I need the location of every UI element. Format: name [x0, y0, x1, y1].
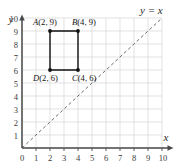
y-tick-2: 2 [14, 118, 18, 128]
x-tick-8: 8 [132, 153, 136, 163]
y-tick-1: 1 [14, 131, 18, 141]
y-tick-6: 6 [14, 66, 18, 76]
line-equation-label: y = x [139, 4, 163, 16]
y-axis-label: y [8, 13, 14, 25]
x-tick-0: 0 [20, 153, 24, 163]
x-axis-label: x [163, 131, 169, 143]
point-label-c-coords: (4, 6) [78, 73, 97, 83]
x-tick-10: 10 [159, 153, 168, 163]
point-marker-a [48, 29, 52, 33]
x-tick-1: 1 [34, 153, 38, 163]
y-tick-8: 8 [14, 40, 18, 50]
x-axis-tick-labels: 0 1 2 3 4 5 6 7 8 9 10 [20, 153, 167, 163]
point-marker-d [48, 68, 52, 72]
y-tick-3: 3 [14, 105, 18, 115]
point-label-a: A(2, 9) [32, 17, 57, 27]
point-label-d-coords: (2, 6) [39, 73, 58, 83]
point-label-b-coords: (4, 9) [77, 17, 96, 27]
point-label-a-coords: (2, 9) [38, 17, 57, 27]
point-label-b: B(4, 9) [72, 17, 96, 27]
x-tick-5: 5 [90, 153, 94, 163]
x-tick-7: 7 [118, 153, 122, 163]
y-tick-7: 7 [14, 53, 18, 63]
point-label-d: D(2, 6) [32, 73, 58, 83]
y-axis-arrow [19, 15, 25, 21]
point-marker-c [76, 68, 80, 72]
x-tick-4: 4 [76, 153, 81, 163]
x-axis-arrow [168, 145, 174, 151]
y-tick-9: 9 [14, 27, 18, 37]
x-tick-6: 6 [104, 153, 108, 163]
point-marker-b [76, 29, 80, 33]
x-tick-9: 9 [146, 153, 150, 163]
y-tick-4: 4 [14, 92, 19, 102]
x-tick-2: 2 [48, 153, 52, 163]
y-tick-5: 5 [14, 79, 18, 89]
graph-svg: 10 9 8 7 6 5 4 3 2 1 0 1 2 3 4 5 6 7 8 9… [0, 0, 180, 168]
point-label-c: C(4, 6) [72, 73, 96, 83]
y-axis-tick-labels: 10 9 8 7 6 5 4 3 2 1 [10, 14, 19, 141]
x-tick-3: 3 [62, 153, 66, 163]
coordinate-plane-figure: 10 9 8 7 6 5 4 3 2 1 0 1 2 3 4 5 6 7 8 9… [0, 0, 180, 168]
